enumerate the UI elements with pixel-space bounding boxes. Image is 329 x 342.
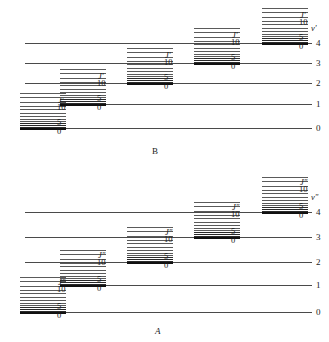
energy-level-figure: 01234J'1050J'1050J'1050J'1050J'1050v'B01… xyxy=(0,0,329,342)
vibrational-quantum-number: 3 xyxy=(316,233,321,242)
rotational-quantum-number: 5 xyxy=(97,275,101,283)
rotational-quantum-number: 0 xyxy=(97,103,101,111)
vibrational-symbol-label: v' xyxy=(311,24,317,32)
rotational-quantum-number: 0 xyxy=(299,42,303,50)
rotational-quantum-number: 0 xyxy=(164,261,168,269)
rotational-quantum-number: 5 xyxy=(299,33,303,41)
rotational-quantum-number: 10 xyxy=(299,185,308,193)
rotational-quantum-number: 10 xyxy=(164,58,173,66)
rotational-quantum-number: 5 xyxy=(231,53,235,61)
rotational-quantum-number: 0 xyxy=(97,284,101,292)
rotational-quantum-number: 5 xyxy=(164,73,168,81)
rotational-level-line xyxy=(127,48,173,49)
rotational-quantum-number: 10 xyxy=(231,210,240,218)
panel-a: 01234J"1050J"1050J"1050J"1050J"1050v"A xyxy=(0,171,329,342)
rotational-quantum-number: 5 xyxy=(97,94,101,102)
vibrational-quantum-number: 4 xyxy=(316,208,321,217)
rotational-level-line xyxy=(60,69,106,70)
vibrational-quantum-number: 4 xyxy=(316,39,321,48)
rotational-level-line xyxy=(60,270,106,271)
rotational-quantum-number: 5 xyxy=(231,227,235,235)
rotational-quantum-number: 10 xyxy=(164,235,173,243)
rotational-quantum-number: 5 xyxy=(299,202,303,210)
rotational-stack xyxy=(262,171,308,342)
rotational-level-line xyxy=(127,68,173,69)
panel-caption: A xyxy=(155,327,161,336)
rotational-level-line xyxy=(194,222,240,223)
rotational-level-line xyxy=(60,89,106,90)
rotational-quantum-number: 10 xyxy=(231,38,240,46)
vibrational-quantum-number: 2 xyxy=(316,79,321,88)
rotational-level-line xyxy=(194,48,240,49)
vibrational-quantum-number: 0 xyxy=(316,308,321,317)
vibrational-quantum-number: 0 xyxy=(316,124,321,133)
rotational-quantum-number: 10 xyxy=(97,258,106,266)
vibrational-quantum-number: 3 xyxy=(316,59,321,68)
rotational-level-line xyxy=(262,28,308,29)
vibrational-quantum-number: 1 xyxy=(316,281,321,290)
rotational-level-line xyxy=(194,28,240,29)
rotational-quantum-number: 0 xyxy=(231,62,235,70)
rotational-stack xyxy=(194,0,240,171)
rotational-quantum-number: 0 xyxy=(231,236,235,244)
panel-b: 01234J'1050J'1050J'1050J'1050J'1050v'B xyxy=(0,0,329,171)
rotational-level-line xyxy=(262,197,308,198)
rotational-quantum-number: 10 xyxy=(97,79,106,87)
rotational-level-line xyxy=(127,247,173,248)
vibrational-symbol-label: v" xyxy=(311,193,318,201)
rotational-level-line xyxy=(262,8,308,9)
rotational-quantum-number: 10 xyxy=(299,18,308,26)
rotational-quantum-number: 0 xyxy=(299,211,303,219)
rotational-quantum-number: 5 xyxy=(164,252,168,260)
vibrational-quantum-number: 2 xyxy=(316,258,321,267)
vibrational-quantum-number: 1 xyxy=(316,100,321,109)
rotational-quantum-number: 0 xyxy=(164,82,168,90)
rotational-stack xyxy=(194,171,240,342)
panel-caption: B xyxy=(152,147,158,156)
